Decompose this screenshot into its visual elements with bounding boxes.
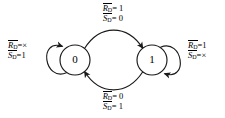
condition-line-sd: SD= 0	[83, 13, 143, 23]
r-bar-variable: RD	[8, 40, 18, 50]
s-bar-variable: SD	[188, 50, 197, 60]
r-bar-variable: RD	[103, 91, 113, 101]
transition-label-1-to-0: RD= 0 SD= 1	[83, 91, 143, 111]
s-bar-variable: SD	[103, 13, 112, 23]
state-label-0: 0	[65, 54, 85, 65]
condition-line-sd: SD=1	[8, 50, 42, 60]
condition-line-sd: SD= 1	[83, 101, 143, 111]
transition-arc-1-to-0	[85, 72, 143, 90]
condition-line-rd: RD= 0	[83, 91, 143, 101]
transition-label-0-to-1: RD= 1 SD= 0	[83, 3, 143, 23]
condition-line-rd: RD=1	[188, 40, 222, 50]
condition-line-rd: RD= 1	[83, 3, 143, 13]
s-bar-variable: SD	[103, 101, 112, 111]
r-bar-variable: RD	[188, 40, 198, 50]
self-loop-label-state-0: RD=× SD=1	[8, 40, 42, 60]
state-transition-diagram: 0 1 RD= 1 SD= 0 RD= 0 SD= 1 RD=× SD=1 RD…	[0, 0, 225, 118]
condition-line-rd: RD=×	[8, 40, 42, 50]
self-loop-label-state-1: RD=1 SD=×	[188, 40, 222, 60]
s-bar-variable: SD	[8, 50, 17, 60]
transition-arc-0-to-1	[85, 30, 143, 48]
state-label-1: 1	[142, 54, 162, 65]
r-bar-variable: RD	[103, 3, 113, 13]
condition-line-sd: SD=×	[188, 50, 222, 60]
